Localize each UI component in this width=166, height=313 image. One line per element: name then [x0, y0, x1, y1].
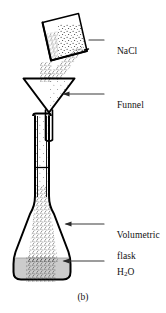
salt-in-water [26, 256, 56, 282]
label-funnel-text: Funnel [117, 100, 144, 110]
label-h2o-oxygen: O [127, 267, 134, 277]
neck-salt-column [36, 116, 48, 188]
leader-lines [64, 40, 104, 261]
label-funnel: Funnel [107, 89, 144, 121]
label-nacl-text: NaCl [117, 46, 137, 56]
label-h2o-element: H [117, 267, 124, 277]
label-volumetric-flask-line1: Volumetric [117, 230, 160, 240]
volumetric-flask [14, 114, 71, 283]
salt-plume [26, 186, 60, 264]
beaker-lip [85, 49, 89, 50]
figure-root: NaCl Funnel Volumetric flask H2O (b) [0, 0, 166, 313]
label-nacl: NaCl [107, 35, 137, 67]
arrowhead-flask [65, 221, 72, 226]
figure-caption: (b) [0, 292, 166, 302]
label-h2o: H2O [107, 256, 134, 290]
